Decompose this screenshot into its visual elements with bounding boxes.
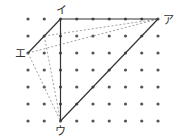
grid-dot	[108, 51, 111, 54]
grid-dot	[156, 85, 159, 88]
grid-dot	[26, 17, 29, 20]
dot-grid-diagram: ア イ ウ エ	[0, 0, 177, 139]
grid-dot	[91, 102, 94, 105]
grid-dot	[156, 51, 159, 54]
solid-segment-e-i	[28, 19, 61, 53]
grid-dot	[75, 68, 78, 71]
grid-dot	[43, 68, 46, 71]
label-u: ウ	[55, 125, 66, 138]
solid-segment-u-a	[61, 19, 159, 121]
grid-dot	[91, 68, 94, 71]
grid-dot	[124, 119, 127, 122]
grid-dot	[140, 119, 143, 122]
grid-dot	[108, 119, 111, 122]
dashed-segment-e-u	[28, 53, 61, 121]
grid-dot	[26, 34, 29, 37]
dashed-segment-p-a	[44, 19, 158, 36]
grid-dot	[75, 51, 78, 54]
grid-dot	[124, 68, 127, 71]
grid-dot	[124, 85, 127, 88]
dashed-segment-p-u	[44, 36, 60, 121]
grid-dot	[156, 68, 159, 71]
label-a: ア	[163, 14, 174, 27]
grid-dot	[91, 119, 94, 122]
grid-dot	[156, 119, 159, 122]
grid-dot	[124, 34, 127, 37]
grid-dot	[140, 68, 143, 71]
grid-dot	[75, 34, 78, 37]
grid-dot	[26, 102, 29, 105]
grid-dot	[108, 102, 111, 105]
grid-dot	[140, 102, 143, 105]
grid-dot	[124, 102, 127, 105]
label-i: イ	[56, 4, 67, 17]
label-e: エ	[15, 47, 26, 60]
grid-dot	[108, 34, 111, 37]
grid-dot	[26, 85, 29, 88]
grid-dot	[140, 85, 143, 88]
grid-dot	[156, 34, 159, 37]
grid-dot	[43, 51, 46, 54]
grid-dot	[75, 119, 78, 122]
grid-dot	[75, 85, 78, 88]
grid-dot	[108, 85, 111, 88]
grid-dot	[26, 68, 29, 71]
grid-dot	[43, 102, 46, 105]
grid-dot	[43, 17, 46, 20]
grid-dot	[43, 119, 46, 122]
grid-dot	[156, 102, 159, 105]
grid-dot	[26, 119, 29, 122]
grid-dot	[140, 51, 143, 54]
grid-dot	[91, 51, 94, 54]
